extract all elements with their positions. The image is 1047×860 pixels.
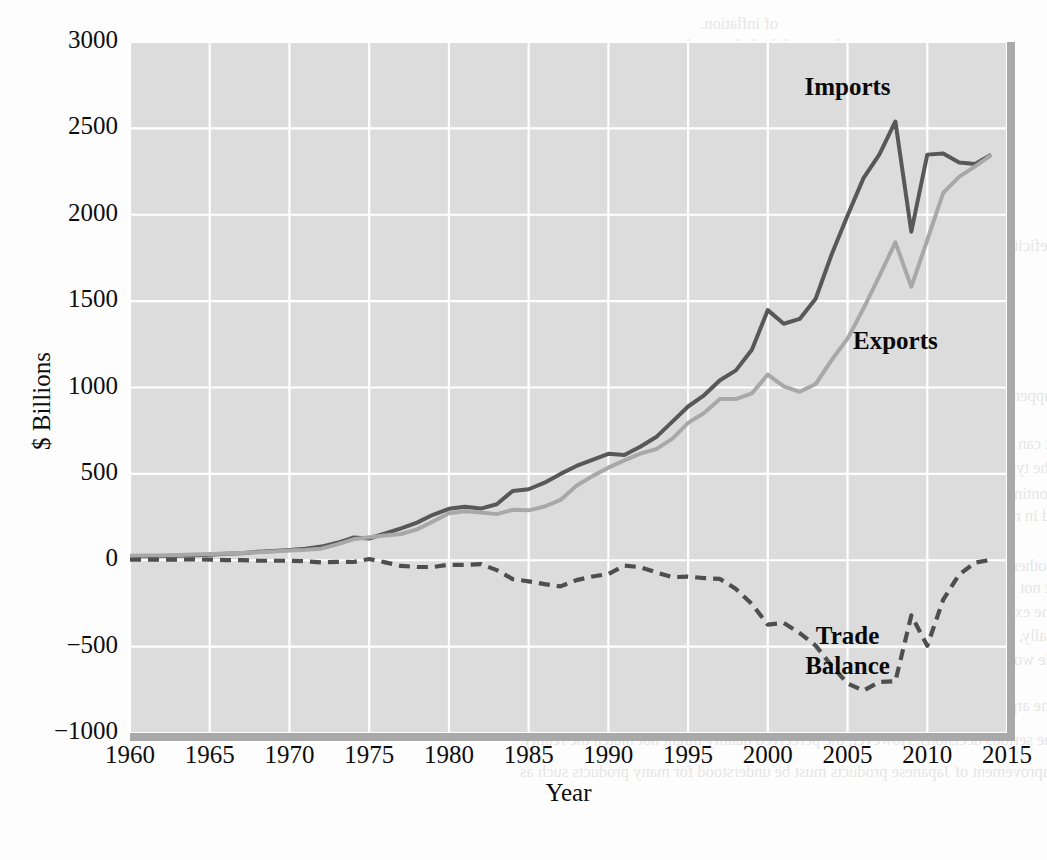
y-tick-0: 0	[0, 544, 118, 572]
x-tick-1985: 1985	[491, 741, 567, 769]
x-tick-1970: 1970	[251, 741, 327, 769]
x-tick-2000: 2000	[730, 741, 806, 769]
x-tick-1990: 1990	[570, 741, 646, 769]
series-label-trade-balance: Trade Balance	[758, 621, 938, 681]
x-tick-2005: 2005	[810, 741, 886, 769]
y-tick-500: 500	[0, 458, 118, 486]
y-tick-neg500: −500	[0, 631, 118, 659]
series-label-imports: Imports	[768, 72, 928, 102]
y-tick-3000: 3000	[0, 26, 118, 54]
x-tick-1995: 1995	[650, 741, 726, 769]
y-axis-title: $ Billions	[28, 352, 56, 450]
series-label-trade-balance-line1: Trade	[758, 621, 938, 651]
y-tick-2500: 2500	[0, 112, 118, 140]
trade-chart-figure: 300025002000150010005000−500−1000 196019…	[0, 0, 1047, 860]
x-axis-title: Year	[130, 779, 1007, 807]
x-tick-1960: 1960	[92, 741, 168, 769]
chart-svg	[0, 0, 1047, 860]
x-tick-2015: 2015	[969, 741, 1045, 769]
y-tick-1000: 1000	[0, 372, 118, 400]
y-tick-1500: 1500	[0, 285, 118, 313]
y-tick-2000: 2000	[0, 199, 118, 227]
x-tick-1980: 1980	[411, 741, 487, 769]
x-tick-2010: 2010	[889, 741, 965, 769]
series-label-exports: Exports	[815, 326, 975, 356]
series-label-trade-balance-line2: Balance	[758, 651, 938, 681]
x-tick-1975: 1975	[331, 741, 407, 769]
x-tick-1965: 1965	[172, 741, 248, 769]
